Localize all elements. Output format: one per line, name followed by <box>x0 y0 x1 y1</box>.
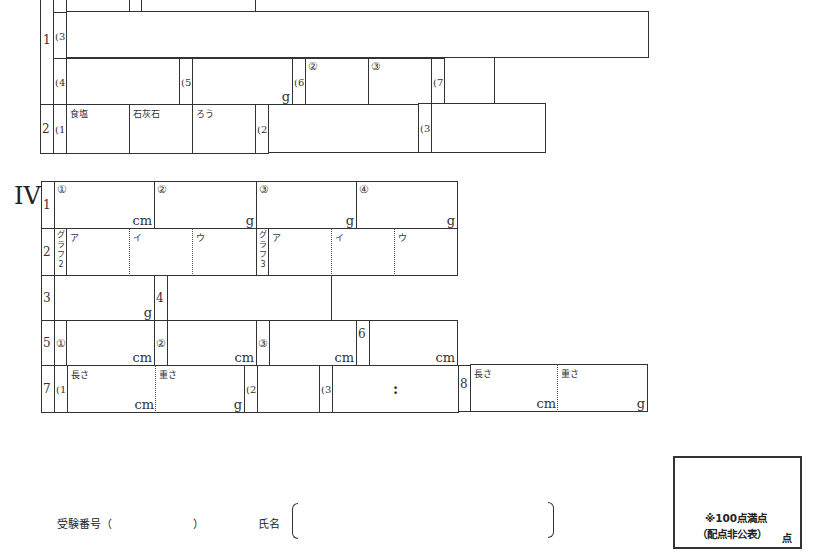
s4-q1-cell-2[interactable]: ② g <box>154 181 257 229</box>
s4-q2-graph3-u[interactable]: ウ <box>394 228 458 276</box>
s4-q1-cell-4[interactable]: ④ g <box>356 181 458 229</box>
s4-q4-answer-cell[interactable] <box>167 275 332 321</box>
s4-q3-number-cell: 3 <box>41 275 55 321</box>
q1-3-answer-cell[interactable] <box>66 11 649 58</box>
s4-q7-number-cell: 7 <box>41 365 55 413</box>
q1-5-label-cell: (5) <box>179 58 193 105</box>
s4-q7-2-answer-cell[interactable] <box>257 365 320 413</box>
q2-number-cell: 2 <box>40 104 54 154</box>
q1-6-circle3-cell[interactable]: ③ <box>368 58 432 105</box>
q1-7-label-cell: (7) <box>431 58 445 105</box>
right-bracket <box>548 502 554 538</box>
s4-q5-cell-3[interactable]: cm <box>269 320 357 366</box>
s4-q2-graph2-u[interactable]: ウ <box>192 228 257 276</box>
q1-5-answer-cell[interactable]: g <box>192 58 293 105</box>
section4-roman-numeral: IV <box>14 182 41 210</box>
s4-q8-weight-cell[interactable]: 重さ g <box>557 364 648 412</box>
s4-q2-graph2-i[interactable]: イ <box>129 228 193 276</box>
exam-number-close: ） <box>193 515 204 531</box>
q2-1-limestone-cell[interactable]: 石灰石 <box>129 104 193 154</box>
s4-q5-cell-2[interactable]: cm <box>167 320 257 366</box>
ratio-separator: : <box>393 381 398 397</box>
s4-q2-graph3-i[interactable]: イ <box>331 228 395 276</box>
s4-q2-graph2-a[interactable]: ア <box>66 228 130 276</box>
s4-q7-3-label-cell: (3) <box>319 365 333 413</box>
s4-q5-circle3-label: ③ <box>256 320 270 366</box>
q1-6-circle2-cell[interactable]: ② <box>305 58 369 105</box>
q2-1-salt-cell[interactable]: 食塩 <box>66 104 130 154</box>
q1-number: 1 <box>43 33 51 47</box>
q2-3-label-cell: (3) <box>418 103 432 153</box>
q1-3-label-cell: (3) <box>53 12 67 59</box>
q2-2-answer-cell[interactable] <box>268 104 419 153</box>
s4-q1-cell-1[interactable]: ① cm <box>54 181 155 229</box>
left-bracket <box>292 503 298 539</box>
s4-q5-circle2-label: ② <box>154 320 168 366</box>
q1-7-answer-cell[interactable] <box>444 57 495 104</box>
s4-q8-length-cell[interactable]: 長さ cm <box>470 364 558 412</box>
s4-q2-graph3-a[interactable]: ア <box>268 228 332 276</box>
q2-1-wax-cell[interactable]: ろう <box>192 104 256 154</box>
q1-6-label-cell: (6) <box>292 58 306 105</box>
s4-q5-number-cell: 5 <box>41 320 55 366</box>
s4-q2-number-cell: 2 <box>41 228 55 276</box>
s4-q7-1-label-cell: (1) <box>54 365 68 413</box>
s4-q7-2-label-cell: (2) <box>244 365 258 413</box>
q1-4-answer-cell[interactable] <box>66 58 180 105</box>
exam-number-label: 受験番号（ <box>57 515 112 531</box>
s4-q6-number-cell: 6 <box>356 320 370 366</box>
q1-4-label-cell: (4) <box>53 58 67 105</box>
q2-3-answer-cell[interactable] <box>431 103 546 153</box>
s4-q1-cell-3[interactable]: ③ g <box>256 181 357 229</box>
score-note-line1: ※100点満点 <box>705 510 767 525</box>
name-label: 氏名 <box>258 515 280 531</box>
score-unit: 点 <box>782 530 792 545</box>
q2-1-label-cell: (1) <box>53 104 67 154</box>
s4-q4-number-cell: 4 <box>154 275 168 321</box>
q2-2-label-cell: (2) <box>255 104 269 154</box>
s4-q7-1-length-cell[interactable]: 長さ cm <box>67 365 156 413</box>
s4-q6-answer-cell[interactable]: cm <box>369 320 458 366</box>
score-box[interactable]: ※100点満点 （配点非公表） 点 <box>673 456 802 549</box>
exam-number-field[interactable] <box>130 510 195 532</box>
s4-q7-1-weight-cell[interactable]: 重さ g <box>155 365 245 413</box>
s4-q1-number-cell: 1 <box>41 181 55 229</box>
s4-q3-answer-cell[interactable]: g <box>54 275 155 321</box>
s4-q5-cell-1[interactable]: cm <box>66 320 155 366</box>
name-field[interactable] <box>292 503 554 541</box>
s4-q7-3-ratio-cell[interactable]: : <box>332 365 459 413</box>
score-note-line2: （配点非公表） <box>697 526 767 541</box>
